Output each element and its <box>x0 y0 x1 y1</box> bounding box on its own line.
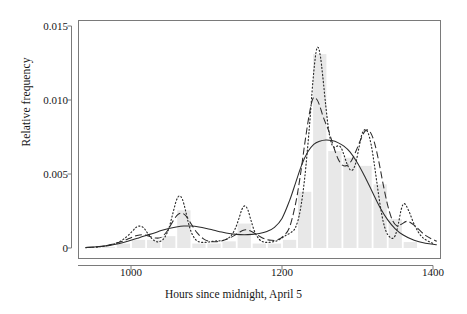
histogram-bars <box>102 54 417 248</box>
histogram-bar <box>404 242 417 248</box>
chart-figure: 0 0.005 0.010 0.015 1000 1200 1400 Relat… <box>0 0 467 314</box>
y-tick-label-0: 0 <box>8 242 68 254</box>
y-tick-label-0015: 0.015 <box>8 20 68 32</box>
histogram-bar <box>328 151 341 248</box>
histogram-bar <box>268 244 281 248</box>
histogram-bar <box>313 54 326 248</box>
histogram-bar <box>238 224 251 248</box>
histogram-bar <box>253 244 266 248</box>
x-tick-label-1200: 1200 <box>252 266 312 278</box>
histogram-bar <box>132 240 145 248</box>
histogram-bar <box>192 244 205 248</box>
histogram-bar <box>177 210 190 248</box>
x-tick-label-1400: 1400 <box>403 266 463 278</box>
density-histogram-plot <box>0 0 467 314</box>
x-tick-label-1000: 1000 <box>101 266 161 278</box>
histogram-bar <box>358 166 371 248</box>
histogram-bar <box>223 241 236 248</box>
x-axis-title: Hours since midnight, April 5 <box>0 288 467 300</box>
histogram-bar <box>343 158 356 248</box>
y-tick-label-0005: 0.005 <box>8 168 68 180</box>
y-tick-label-0010: 0.010 <box>8 94 68 106</box>
histogram-bar <box>207 244 220 248</box>
histogram-bar <box>298 192 311 248</box>
y-axis-title: Relative frequency <box>20 32 32 172</box>
histogram-bar <box>283 240 296 248</box>
histogram-bar <box>147 240 160 248</box>
histogram-bar <box>102 247 115 248</box>
histogram-bar <box>162 236 175 248</box>
